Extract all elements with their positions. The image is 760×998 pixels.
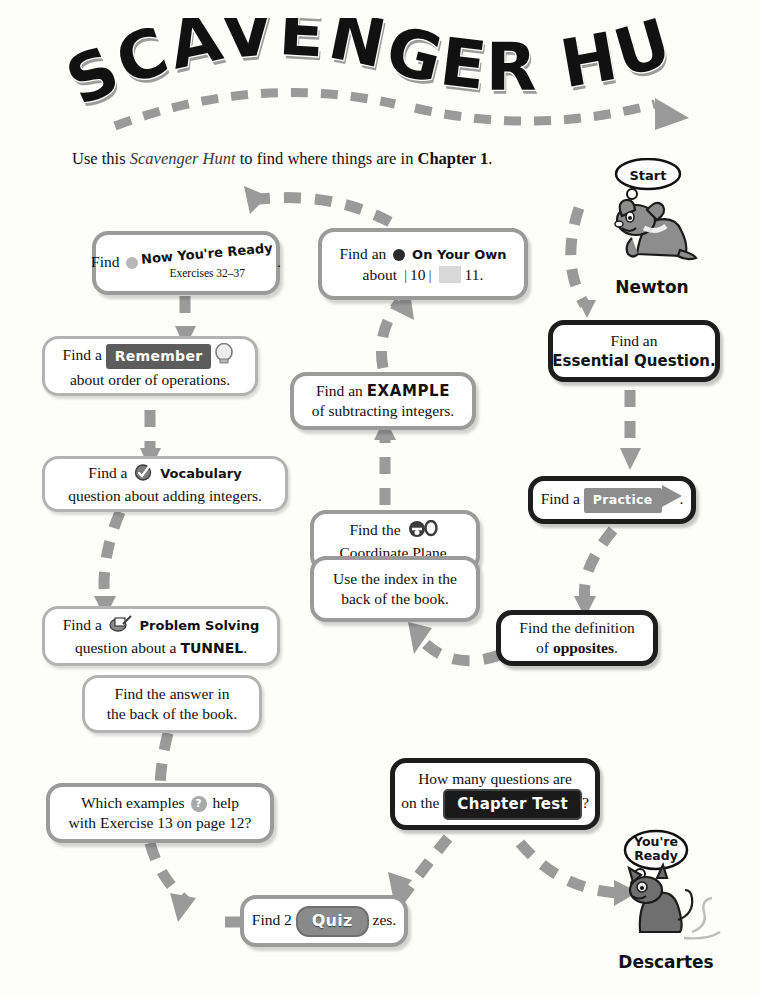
ct-line2-lead: on the: [401, 794, 439, 811]
intro-part2: to find where things are in: [236, 149, 418, 168]
ps-tag: Problem Solving: [140, 618, 260, 633]
nyr-trail: .: [277, 253, 281, 270]
key-icon: [408, 520, 438, 543]
we-line1-lead: Which examples: [81, 794, 185, 811]
oyo-number1: 10: [410, 266, 426, 283]
bullet-dot-icon: [126, 257, 138, 269]
intro-text: Use this Scavenger Hunt to find where th…: [72, 148, 592, 170]
callout-problem-solving[interactable]: Find a Problem Solving question about a …: [42, 606, 280, 666]
answer-line1: Find the answer in: [115, 684, 230, 704]
callout-on-your-own[interactable]: Find an On Your Own about |10|11.: [318, 228, 528, 300]
ps-line2-bold: TUNNEL: [180, 640, 243, 656]
vocab-tag: Vocabulary: [160, 466, 241, 481]
answer-line2: the back of the book.: [107, 704, 237, 724]
example-line2: of subtracting integers.: [312, 401, 454, 421]
callout-chapter-test[interactable]: How many questions are on the Chapter Te…: [390, 758, 600, 830]
divider-bar: |: [429, 266, 432, 283]
ps-line2-trail: .: [243, 639, 247, 656]
end-character-name: Descartes: [592, 952, 740, 972]
ps-lead: Find a: [63, 616, 102, 633]
oyo-tag: On Your Own: [412, 247, 507, 262]
question-mark-icon: ?: [191, 796, 207, 812]
blank-swatch: [439, 266, 461, 283]
callout-vocabulary[interactable]: Find a Vocabulary question about adding …: [42, 456, 288, 512]
start-character: Start Newton: [592, 158, 712, 297]
index-line2: back of the book.: [341, 589, 449, 609]
we-line2: with Exercise 13 on page 12?: [69, 813, 252, 833]
end-bubble-line1: You're: [633, 834, 678, 849]
quiz-trail: zes.: [373, 911, 397, 928]
page-title: SCAVENGER HUNT SCAVENGER HUNT: [55, 18, 715, 143]
end-bubble-line2: Ready: [634, 848, 678, 863]
callout-opposites[interactable]: Find the definition of opposites.: [496, 610, 658, 666]
we-line1-trail: help: [212, 794, 239, 811]
coord-line1: Find the: [349, 521, 400, 538]
oyo-lead: Find an: [339, 245, 386, 262]
svg-text:SCAVENGER HUNT: SCAVENGER HUNT: [55, 18, 682, 121]
vocab-lead: Find a: [88, 464, 127, 481]
remember-tag: Remember: [106, 344, 212, 369]
bullet-dot-icon: [393, 249, 405, 261]
eq-line2: Essential Question.: [552, 351, 715, 371]
callout-quiz[interactable]: Find 2 Quiz zes.: [240, 895, 408, 947]
intro-part3: .: [488, 149, 492, 168]
callout-answer-back[interactable]: Find the answer in the back of the book.: [82, 675, 262, 733]
example-lead: Find an: [316, 382, 363, 399]
opp-line1: Find the definition: [519, 618, 634, 638]
end-character: You're Ready Descartes: [600, 828, 740, 972]
ct-line1: How many questions are: [418, 769, 572, 789]
ct-line2-trail: ?: [582, 794, 589, 811]
practice-lead: Find a: [541, 490, 580, 507]
index-line1: Use the index in the: [333, 569, 457, 589]
opp-line2-bold: opposites: [553, 639, 614, 656]
opp-line2-trail: .: [614, 639, 618, 656]
clipboard-pencil-icon: [109, 614, 133, 638]
practice-tag: Practice: [584, 488, 663, 513]
callout-which-examples[interactable]: Which examples ? help with Exercise 13 o…: [46, 783, 274, 843]
oyo-line2-lead: about: [363, 266, 397, 283]
callout-remember[interactable]: Find a Remember about order of operation…: [42, 336, 258, 396]
lightbulb-icon: [214, 343, 234, 370]
vocab-line2: question about adding integers.: [68, 486, 262, 506]
nyr-lead: Find: [91, 253, 119, 270]
eq-line1: Find an: [611, 331, 658, 351]
intro-part1: Use this: [72, 149, 130, 168]
start-bubble-text: Start: [630, 168, 667, 183]
oyo-number2: 11.: [465, 266, 484, 283]
intro-chapter: Chapter 1: [418, 149, 489, 168]
callout-essential-question[interactable]: Find an Essential Question.: [548, 320, 720, 382]
opp-line2-lead: of: [536, 639, 553, 656]
quiz-lead: Find 2: [252, 911, 292, 928]
callout-practice[interactable]: Find a Practice.: [528, 476, 696, 524]
callout-example[interactable]: Find an EXAMPLE of subtracting integers.: [290, 372, 476, 430]
start-character-name: Newton: [592, 277, 712, 297]
ps-line2-lead: question about a: [75, 639, 177, 656]
quiz-tag: Quiz: [296, 906, 369, 937]
check-circle-icon: [134, 463, 153, 486]
example-bold: EXAMPLE: [367, 382, 450, 400]
callout-now-youre-ready[interactable]: Find Now You're Ready Exercises 32–37 .: [92, 231, 280, 295]
remember-line2: about order of operations.: [70, 370, 230, 390]
callout-index[interactable]: Use the index in the back of the book.: [310, 556, 480, 622]
scavenger-hunt-page: SCAVENGER HUNT SCAVENGER HUNT Use this S…: [0, 0, 760, 998]
chapter-test-tag: Chapter Test: [443, 789, 582, 820]
remember-lead: Find a: [63, 346, 102, 363]
intro-emphasis: Scavenger Hunt: [130, 149, 236, 168]
divider-bar: |: [404, 266, 407, 283]
